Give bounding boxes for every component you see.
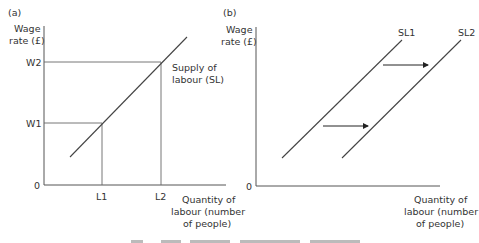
panel-b-ylabel-line2: rate (£) — [221, 36, 257, 47]
l2-tick-label: L2 — [155, 191, 166, 202]
w2-tick-label: W2 — [26, 57, 41, 68]
panel-a-xlabel-line3: of people) — [183, 218, 231, 229]
l1-tick-label: L1 — [96, 191, 107, 202]
panel-b-origin-label: 0 — [246, 181, 252, 192]
panel-b-ylabel-line1: Wage — [226, 24, 253, 35]
panel-a-origin-label: 0 — [34, 180, 40, 191]
sl1-label: SL1 — [398, 27, 415, 38]
panel-a-xlabel-line1: Quantity of — [182, 194, 236, 205]
labour-supply-diagram: (a) Wage rate (£) W2 W1 0 L1 L2 Supply o… — [0, 0, 479, 243]
w1-tick-label: W1 — [26, 118, 41, 129]
sl1-curve — [282, 40, 402, 158]
supply-curve-label-line1: Supply of — [172, 62, 217, 73]
supply-of-labour-curve — [70, 37, 187, 157]
sl2-label: SL2 — [458, 27, 475, 38]
panel-b-xlabel-line1: Quantity of — [414, 194, 468, 205]
sl2-curve — [342, 40, 461, 158]
panel-a-ylabel-line1: Wage — [14, 23, 41, 34]
supply-curve-label-line2: labour (SL) — [172, 74, 224, 85]
panel-a-ylabel-line2: rate (£) — [9, 35, 45, 46]
panel-a-xlabel-line2: labour (number — [171, 206, 245, 217]
panel-b-label: (b) — [223, 7, 236, 18]
panel-b-xlabel-line3: of people) — [416, 218, 464, 229]
panel-b: (b) Wage rate (£) SL1 SL2 0 Quantity of … — [221, 7, 478, 229]
panel-a: (a) Wage rate (£) W2 W1 0 L1 L2 Supply o… — [8, 7, 245, 229]
panel-b-xlabel-line2: labour (number — [404, 206, 478, 217]
panel-a-label: (a) — [8, 7, 21, 18]
